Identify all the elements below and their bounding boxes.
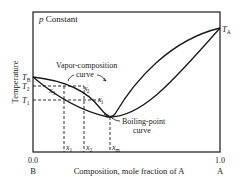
boiling-point-curve <box>33 28 220 117</box>
x-right-component: A <box>217 166 224 176</box>
x1-prime-label: x′1 <box>97 95 104 105</box>
x3-label: x3 <box>48 86 56 96</box>
boiling-curve-label-line2: curve <box>133 126 151 135</box>
phase-diagram: p Constant Temperature TB T2 T1 TA x3 x′… <box>0 0 240 184</box>
x-left-tick: 0.0 <box>28 156 38 165</box>
ta-label: TA <box>222 24 231 35</box>
title: p Constant <box>38 14 78 24</box>
x-right-tick: 1.0 <box>215 156 225 165</box>
vapor-curve-label-line1: Vapor-composition <box>56 61 117 70</box>
x2-label: x2 <box>85 143 93 153</box>
x2-prime-label: x′2 <box>83 84 90 94</box>
boiling-curve-label-line1: Boiling-point <box>122 117 166 126</box>
boiling-pointer-arrow <box>111 117 120 121</box>
vapor-pointer-arrow-left <box>68 75 74 81</box>
xm-label: xm <box>111 143 121 153</box>
x-axis-label: Composition, mole fraction of A <box>74 166 186 176</box>
x-left-component: B <box>30 166 36 176</box>
y-axis-label: Temperature <box>10 60 20 103</box>
t1-label: T1 <box>22 95 30 106</box>
vapor-curve-label-line2: curve <box>76 70 94 79</box>
x1-label: x1 <box>65 143 73 153</box>
vapor-pointer-arrow-right <box>97 75 106 81</box>
vapor-composition-curve <box>33 28 220 116</box>
